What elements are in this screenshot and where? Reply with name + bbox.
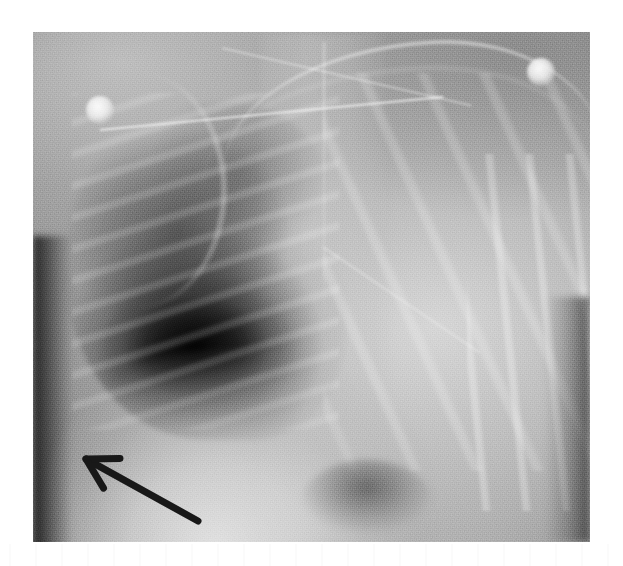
ecg-electrode-upper-left: [86, 96, 114, 124]
radiograph-figure: [0, 0, 623, 566]
xray-image-plate: [33, 32, 590, 542]
ecg-electrode-upper-right: [527, 58, 555, 86]
gastric-bubble: [300, 460, 434, 542]
left-beam-edge-strip: [33, 236, 72, 542]
scanner-margin-speckle: [0, 544, 623, 566]
right-beam-edge-strip: [545, 297, 590, 542]
